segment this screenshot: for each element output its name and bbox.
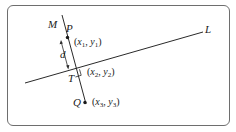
- point-P-label: P: [65, 22, 73, 34]
- arrowhead-down-icon: [66, 65, 69, 70]
- point-P-coordinates: (x1, y1): [74, 36, 102, 49]
- point-Q-coordinates: (x3, y3): [92, 96, 120, 109]
- point-Q-dot: [83, 101, 86, 104]
- arrowhead-up-icon: [60, 40, 63, 44]
- line-L-label: L: [204, 23, 211, 35]
- perpendicular-distance-diagram: M L P T Q d (x1, y1) (x2, y2) (x3, y3): [0, 0, 236, 132]
- right-angle-marker: [75, 69, 81, 77]
- point-Q-label: Q: [73, 96, 81, 108]
- point-T-coordinates: (x2, y2): [87, 66, 115, 79]
- line-M-label: M: [47, 18, 58, 30]
- point-T-label: T: [68, 72, 75, 84]
- distance-label: d: [60, 48, 66, 60]
- point-P-dot: [66, 36, 69, 39]
